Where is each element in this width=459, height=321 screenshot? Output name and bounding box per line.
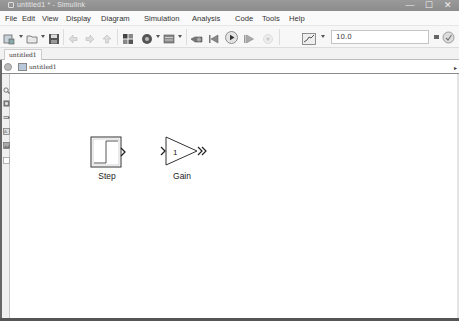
update-diagram-icon [190, 33, 204, 45]
hide-show-browser-icon[interactable] [4, 63, 12, 71]
stop-button[interactable] [262, 31, 274, 43]
folder-icon [26, 33, 38, 45]
step-block[interactable] [90, 136, 130, 170]
save-button[interactable] [48, 31, 60, 43]
stop-time-input[interactable]: 10.0 [331, 30, 429, 44]
forward-arrow-icon [84, 33, 96, 45]
menu-analysis[interactable]: Analysis [192, 14, 220, 23]
gain-input-port-icon [161, 147, 165, 155]
back-arrow-icon [67, 33, 79, 45]
tab-untitled1[interactable]: untitled1 [4, 49, 42, 60]
menu-code[interactable]: Code [235, 14, 253, 23]
menu-help[interactable]: Help [289, 14, 305, 23]
back-button[interactable] [67, 31, 79, 43]
address-bar: untitled1 ▸ [0, 60, 459, 74]
breadcrumb-dropdown-icon[interactable]: ▸ [454, 64, 457, 71]
simulink-app-icon [8, 2, 14, 8]
toolbar: 10.0 [0, 26, 459, 48]
run-button[interactable] [225, 30, 238, 43]
step-forward-icon [243, 33, 255, 45]
update-diagram-button[interactable] [190, 31, 204, 43]
tab-strip: untitled1 [0, 48, 459, 60]
forward-button[interactable] [84, 31, 96, 43]
image-icon[interactable] [3, 142, 10, 149]
area-icon[interactable] [3, 157, 10, 164]
menu-view[interactable]: View [42, 14, 58, 23]
minimize-button[interactable]: — [402, 0, 418, 11]
close-button[interactable]: ✕ [440, 0, 456, 11]
model-icon [18, 63, 27, 71]
menu-bar: File Edit View Display Diagram Simulatio… [0, 11, 459, 26]
menu-simulation[interactable]: Simulation [144, 14, 179, 23]
simulation-mode-menu-icon[interactable] [434, 35, 439, 39]
window-left-border [0, 60, 2, 321]
step-output-port-icon [121, 148, 125, 156]
step-block-label[interactable]: Step [94, 171, 120, 181]
step-back-icon [208, 33, 220, 45]
toolbar-separator [186, 29, 187, 45]
model-explorer-button[interactable] [163, 31, 175, 43]
toolbar-separator [63, 29, 64, 45]
gear-icon [141, 33, 153, 45]
breadcrumb[interactable]: untitled1 [29, 62, 57, 72]
toolbar-separator [117, 29, 118, 45]
step-forward-button[interactable] [243, 31, 255, 43]
library-browser-icon [122, 33, 134, 45]
stop-icon [262, 33, 274, 45]
up-arrow-icon [101, 33, 113, 45]
library-browser-button[interactable] [122, 31, 134, 43]
gain-output-port-icon [198, 147, 206, 155]
svg-text:A: A [4, 129, 7, 134]
model-advisor-button[interactable] [442, 30, 455, 43]
arrow-icon[interactable] [3, 114, 10, 121]
title-bar: untitled1 * - Simulink — ☐ ✕ [0, 0, 459, 11]
zoom-icon[interactable] [3, 87, 10, 94]
model-explorer-icon [163, 33, 175, 45]
window-title: untitled1 * - Simulink [17, 1, 85, 8]
new-model-icon [3, 33, 15, 45]
up-button[interactable] [101, 31, 113, 43]
annotation-icon[interactable]: A [3, 128, 10, 135]
gain-block[interactable]: 1 [160, 134, 210, 170]
data-inspector-icon [302, 33, 316, 45]
gain-block-label[interactable]: Gain [167, 171, 197, 181]
gain-value: 1 [173, 148, 178, 157]
toolbar-separator [279, 29, 280, 45]
menu-tools[interactable]: Tools [262, 14, 280, 23]
menu-display[interactable]: Display [66, 14, 91, 23]
play-icon [225, 31, 238, 44]
open-button[interactable] [26, 31, 38, 43]
maximize-button[interactable]: ☐ [421, 0, 437, 11]
model-configuration-dropdown-icon[interactable] [156, 35, 160, 38]
model-configuration-button[interactable] [141, 31, 153, 43]
menu-diagram[interactable]: Diagram [101, 14, 130, 23]
step-back-button[interactable] [208, 31, 220, 43]
new-model-button[interactable] [3, 31, 15, 43]
model-canvas[interactable]: Step 1 Gain [10, 74, 459, 319]
menu-file[interactable]: File [5, 14, 17, 23]
simulation-data-inspector-button[interactable] [302, 31, 316, 43]
advisor-icon [442, 31, 455, 44]
new-model-dropdown-icon[interactable] [19, 35, 23, 38]
open-dropdown-icon[interactable] [41, 35, 45, 38]
fit-to-view-icon[interactable] [3, 100, 10, 107]
save-icon [48, 33, 60, 45]
model-explorer-dropdown-icon[interactable] [178, 35, 182, 38]
menu-edit[interactable]: Edit [22, 14, 35, 23]
data-inspector-dropdown-icon[interactable] [321, 35, 325, 38]
